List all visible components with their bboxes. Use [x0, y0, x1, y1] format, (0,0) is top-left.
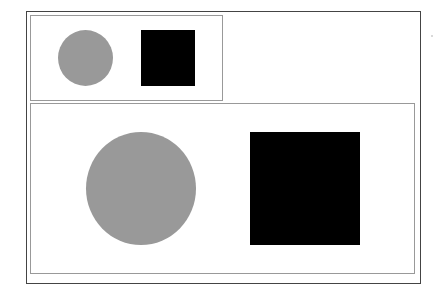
large-black-square [250, 132, 360, 245]
small-gray-circle [58, 30, 113, 86]
stray-dot [431, 35, 433, 37]
large-gray-circle [86, 132, 196, 245]
small-black-square [141, 30, 195, 86]
